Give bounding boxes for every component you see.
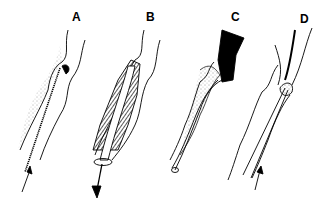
- panel-a-drawing: [18, 30, 85, 192]
- panel-label-c: C: [231, 10, 240, 24]
- panel-b-drawing: [92, 30, 160, 198]
- panel-label-b: B: [146, 10, 155, 24]
- illustration: [0, 0, 329, 200]
- panel-label-d: D: [300, 12, 309, 26]
- panel-label-a: A: [72, 10, 81, 24]
- panel-d-drawing: [228, 28, 312, 190]
- panel-c-drawing: [170, 30, 244, 173]
